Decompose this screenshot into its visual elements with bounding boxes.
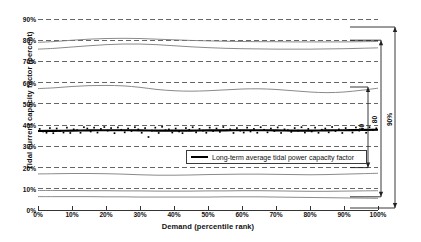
scatter-point — [141, 132, 143, 134]
scatter-point — [372, 129, 374, 131]
scatter-point — [338, 129, 340, 131]
scatter-point — [63, 132, 65, 134]
x-axis-label: Demand (percentile rank) — [38, 222, 378, 231]
series-percentile-lower-1 — [38, 173, 378, 175]
axis-lines — [38, 206, 378, 210]
annotation-label-inner: 50 — [358, 124, 365, 131]
legend[interactable]: Long-term average tidal power capacity f… — [186, 150, 367, 164]
scatter-point — [127, 128, 129, 130]
scatter-point — [205, 132, 207, 134]
scatter-point — [120, 129, 122, 131]
scatter-point — [144, 127, 146, 129]
scatter-point — [195, 131, 197, 133]
scatter-point — [307, 128, 309, 130]
scatter-point — [93, 127, 95, 129]
scatter-point — [246, 127, 248, 129]
series-percentile-upper-2 — [38, 44, 378, 49]
scatter-point — [175, 128, 177, 130]
scatter-point — [46, 132, 48, 134]
scatter-point — [369, 126, 371, 128]
scatter-point — [314, 127, 316, 129]
scatter-point — [209, 127, 211, 129]
scatter-point — [117, 127, 119, 129]
scatter-point — [52, 132, 54, 134]
scatter-point — [328, 131, 330, 133]
scatter-point — [256, 132, 258, 134]
scatter-point — [311, 131, 313, 133]
scatter-point — [103, 126, 105, 128]
scatter-point — [270, 128, 272, 130]
scatter-point — [165, 129, 167, 131]
legend-line-swatch — [191, 156, 208, 158]
scatter-layer — [39, 126, 377, 138]
scatter-point — [321, 129, 323, 131]
scatter-point — [80, 132, 82, 134]
scatter-point — [161, 126, 163, 128]
scatter-point — [76, 129, 78, 131]
scatter-point — [83, 126, 85, 128]
scatter-point — [301, 126, 303, 128]
scatter-point — [100, 128, 102, 130]
scatter-point — [114, 132, 116, 134]
scatter-point — [243, 132, 245, 134]
series-long-term-average — [38, 130, 378, 131]
scatter-point — [216, 128, 218, 130]
series-layer — [38, 38, 378, 198]
annotation-label-outer: 90% — [386, 113, 393, 126]
scatter-point — [345, 127, 347, 129]
scatter-point — [280, 132, 282, 134]
legend-label-long-term-average: Long-term average tidal power capacity f… — [212, 154, 354, 161]
scatter-point — [49, 127, 51, 129]
scatter-point — [375, 127, 377, 129]
x-tick-40: 40% — [167, 211, 180, 218]
scatter-point — [355, 127, 357, 129]
scatter-point — [239, 130, 241, 132]
scatter-point — [56, 128, 58, 130]
scatter-point — [168, 129, 170, 131]
scatter-point — [171, 132, 173, 134]
scatter-point — [335, 130, 337, 132]
scatter-point — [267, 131, 269, 133]
scatter-point — [318, 132, 320, 134]
scatter-point — [324, 128, 326, 130]
scatter-point — [90, 131, 92, 133]
scatter-point — [263, 129, 265, 131]
scatter-point — [287, 129, 289, 131]
scatter-point — [110, 127, 112, 129]
scatter-point — [86, 128, 88, 130]
x-tick-20: 20% — [99, 211, 112, 218]
annotation-label-middle: 80 — [371, 116, 378, 123]
scatter-point — [73, 129, 75, 131]
scatter-point — [151, 130, 153, 132]
scatter-point — [188, 129, 190, 131]
scatter-point — [131, 130, 133, 132]
scatter-point — [253, 128, 255, 130]
scatter-point — [250, 131, 252, 133]
scatter-point — [297, 130, 299, 132]
scatter-point — [199, 128, 201, 130]
x-tick-50: 50% — [201, 211, 214, 218]
scatter-point — [42, 131, 44, 133]
scatter-point — [66, 127, 68, 129]
scatter-point — [154, 127, 156, 129]
scatter-point — [69, 132, 71, 134]
scatter-point — [137, 129, 139, 131]
scatter-point — [294, 127, 296, 129]
scatter-point — [233, 132, 235, 134]
scatter-point — [260, 126, 262, 128]
scatter-point — [219, 131, 221, 133]
scatter-point — [39, 128, 41, 130]
plot-canvas — [0, 0, 421, 242]
scatter-point — [158, 132, 160, 134]
scatter-point — [148, 136, 150, 138]
scatter-point — [178, 131, 180, 133]
scatter-point — [284, 129, 286, 131]
scatter-point — [352, 132, 354, 134]
scatter-point — [236, 127, 238, 129]
x-tick-80: 80% — [303, 211, 316, 218]
scatter-point — [182, 132, 184, 134]
scatter-point — [202, 130, 204, 132]
x-tick-10: 10% — [65, 211, 78, 218]
series-percentile-mid — [38, 85, 378, 92]
scatter-point — [134, 126, 136, 128]
